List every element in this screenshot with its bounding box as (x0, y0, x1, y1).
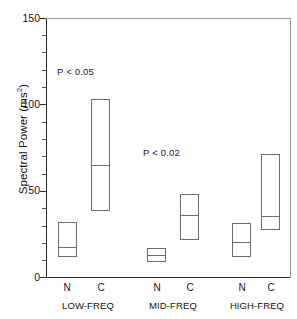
y-tick-minor-140 (42, 35, 46, 36)
y-tick-major-50 (40, 191, 46, 192)
median-line-low-freq-n (58, 247, 77, 248)
y-tick-label-150: 150 (14, 13, 40, 23)
box-low-freq-c (91, 99, 110, 211)
y-tick-label-0: 0 (14, 272, 40, 282)
y-tick-minor-40 (42, 208, 46, 209)
y-tick-minor-90 (42, 122, 46, 123)
median-line-low-freq-c (91, 165, 110, 166)
y-tick-major-0 (40, 277, 46, 278)
x-axis-line (46, 277, 291, 278)
y-tick-minor-120 (42, 70, 46, 71)
y-tick-minor-30 (42, 226, 46, 227)
annotation-p-low: P < 0.05 (57, 66, 94, 77)
y-tick-minor-70 (42, 156, 46, 157)
box-high-freq-c (261, 154, 280, 230)
plot-frame-right (290, 18, 291, 278)
y-tick-label-100: 100 (14, 99, 40, 109)
median-line-high-freq-c (261, 216, 280, 217)
box-low-freq-n (58, 222, 77, 257)
median-line-mid-freq-c (180, 215, 199, 216)
y-tick-label-group: 150 100 50 0 (14, 0, 40, 319)
y-tick-major-100 (40, 104, 46, 105)
box-mid-freq-c (180, 194, 199, 240)
x-tick-label-mid-n: N (150, 282, 164, 293)
x-group-label-high-freq: HIGH-FREQ (212, 300, 297, 311)
median-line-high-freq-n (232, 242, 251, 243)
y-tick-minor-10 (42, 260, 46, 261)
x-tick-label-high-n: N (235, 282, 249, 293)
y-axis-line (46, 18, 47, 278)
x-tick-label-low-n: N (60, 282, 74, 293)
y-tick-minor-20 (42, 243, 46, 244)
y-tick-minor-60 (42, 174, 46, 175)
x-group-label-low-freq: LOW-FREQ (43, 300, 133, 311)
chart-figure: Spectral Power (ms2) 150 100 50 0 P < 0.… (0, 0, 297, 319)
plot-frame-top (46, 18, 291, 19)
median-line-mid-freq-n (147, 255, 166, 256)
y-tick-minor-80 (42, 139, 46, 140)
annotation-p-mid: P < 0.02 (143, 147, 180, 158)
y-tick-label-50: 50 (14, 185, 40, 195)
x-group-label-mid-freq: MID-FREQ (128, 300, 218, 311)
x-tick-label-high-c: C (264, 282, 278, 293)
y-tick-minor-130 (42, 52, 46, 53)
y-tick-minor-110 (42, 87, 46, 88)
box-high-freq-n (232, 223, 251, 258)
x-tick-label-mid-c: C (183, 282, 197, 293)
y-tick-major-150 (40, 18, 46, 19)
x-tick-label-low-c: C (94, 282, 108, 293)
